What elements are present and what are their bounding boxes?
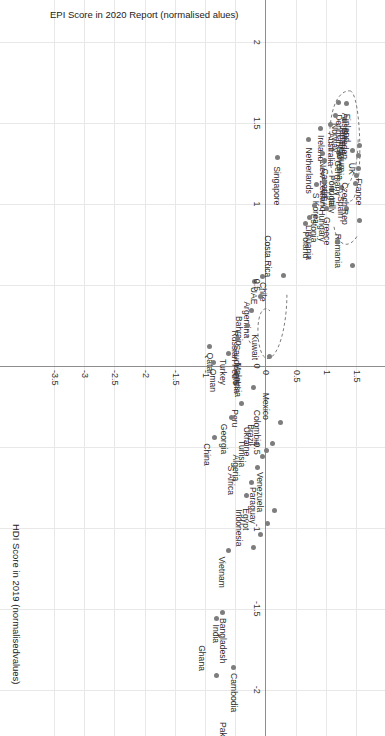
gridline-x <box>0 609 385 610</box>
data-point-label: Cambodia <box>229 673 238 712</box>
x-tick-label: 0 <box>252 363 262 368</box>
y-axis-title: EPI Score in 2020 Report (normalised alu… <box>50 9 239 20</box>
data-point[interactable] <box>353 181 358 186</box>
y-tick-label: -1.5 <box>171 370 181 386</box>
data-point[interactable] <box>312 203 317 208</box>
gridline-y <box>175 0 176 736</box>
y-axis-line <box>0 366 385 367</box>
x-axis-title: HDI Score in 2019 (normalisedvalues) <box>11 524 22 685</box>
x-tick-label: 0.5 <box>252 279 262 292</box>
data-point-label: Ghana <box>197 645 206 671</box>
gridline-x <box>0 528 385 529</box>
gridline-x <box>0 285 385 286</box>
data-point[interactable] <box>354 173 359 178</box>
y-tick-label: -3.5 <box>50 370 60 386</box>
data-point[interactable] <box>336 100 341 105</box>
data-point[interactable] <box>207 344 212 349</box>
data-point-label: Czech Rep <box>340 182 349 225</box>
data-point[interactable] <box>357 143 362 148</box>
data-point[interactable] <box>249 308 254 313</box>
y-tick-label: 0.5 <box>292 370 302 383</box>
gridline-y <box>84 0 85 736</box>
data-point[interactable] <box>258 532 263 537</box>
y-tick-label: 1.5 <box>352 370 362 383</box>
data-point[interactable] <box>275 155 280 160</box>
data-point-label: Hungary <box>317 209 326 241</box>
data-point[interactable] <box>281 273 286 278</box>
data-point-label: India <box>211 625 220 644</box>
gridline-x <box>0 690 385 691</box>
data-point[interactable] <box>212 435 217 440</box>
data-point[interactable] <box>356 166 361 171</box>
data-point-label: Netherlands <box>304 147 313 193</box>
data-point[interactable] <box>318 126 323 131</box>
x-tick-label: 1 <box>252 202 262 207</box>
data-point[interactable] <box>306 137 311 142</box>
gridline-y <box>114 0 115 736</box>
gridline-y <box>326 0 327 736</box>
data-point[interactable] <box>265 521 270 526</box>
data-point-label: Pakistan <box>218 722 227 736</box>
data-point[interactable] <box>255 465 260 470</box>
data-point-label: S Africa <box>226 465 235 495</box>
y-tick-label: -2 <box>141 370 151 378</box>
data-point[interactable] <box>235 336 240 341</box>
data-point-label: Kuwait <box>250 334 259 360</box>
y-tick-label: -2.5 <box>110 370 120 386</box>
data-point[interactable] <box>272 508 277 513</box>
x-tick-label: -1 <box>252 524 262 532</box>
data-point[interactable] <box>350 263 355 268</box>
y-tick-label: -3 <box>80 370 90 378</box>
data-point[interactable] <box>220 610 225 615</box>
data-point[interactable] <box>270 441 275 446</box>
data-point-label: Costa Rica <box>263 235 272 277</box>
y-tick-label: -0.5 <box>231 370 241 386</box>
gridline-y <box>145 0 146 736</box>
data-point[interactable] <box>278 420 283 425</box>
data-point[interactable] <box>251 385 256 390</box>
x-tick-label: 2 <box>252 40 262 45</box>
data-point-label: China <box>202 443 211 465</box>
gridline-y <box>296 0 297 736</box>
data-point[interactable] <box>335 239 340 244</box>
y-tick-label: -1 <box>201 370 211 378</box>
data-point[interactable] <box>251 545 256 550</box>
data-point[interactable] <box>226 548 231 553</box>
cluster-outline-lasso <box>0 0 385 736</box>
data-point[interactable] <box>350 148 355 153</box>
gridline-x <box>0 447 385 448</box>
y-tick-label: 0 <box>261 370 271 375</box>
data-point-label: Singapore <box>272 166 281 205</box>
cluster-outline <box>258 295 287 359</box>
data-point[interactable] <box>214 616 219 621</box>
data-point[interactable] <box>214 673 219 678</box>
data-point-label: Turkey <box>218 359 227 385</box>
data-point[interactable] <box>357 218 362 223</box>
data-point[interactable] <box>260 454 265 459</box>
x-tick-label: -2 <box>252 686 262 694</box>
gridline-x <box>0 123 385 124</box>
scatter-plot: DenmarkFinlandSwedenNorwayAustraliaIrela… <box>0 0 385 736</box>
x-axis-line <box>265 0 266 736</box>
data-point[interactable] <box>356 153 361 158</box>
data-point[interactable] <box>211 360 216 365</box>
data-point[interactable] <box>258 294 263 299</box>
data-point[interactable] <box>307 215 312 220</box>
data-point[interactable] <box>344 101 349 106</box>
data-point[interactable] <box>239 401 244 406</box>
rotated-plot-wrapper: DenmarkFinlandSwedenNorwayAustraliaIrela… <box>0 0 385 736</box>
data-point-label: Vietnam <box>217 557 226 588</box>
data-point[interactable] <box>231 665 236 670</box>
data-point[interactable] <box>264 448 269 453</box>
data-point[interactable] <box>333 113 338 118</box>
data-point[interactable] <box>249 480 254 485</box>
data-point-label: Poland <box>301 232 310 259</box>
data-point[interactable] <box>268 354 273 359</box>
gridline-x <box>0 42 385 43</box>
x-tick-label: 1.5 <box>252 117 262 130</box>
gridline-y <box>356 0 357 736</box>
y-tick-label: 1 <box>322 370 332 375</box>
gridline-y <box>54 0 55 736</box>
data-point-label: Georgia <box>219 424 228 455</box>
chart-canvas: DenmarkFinlandSwedenNorwayAustraliaIrela… <box>0 0 385 736</box>
